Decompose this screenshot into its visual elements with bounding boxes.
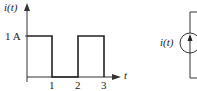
x-axis-label: t [124, 70, 127, 81]
y-axis [24, 3, 30, 82]
tick-label-2: 2 [75, 80, 81, 91]
tick-label-3: 3 [101, 80, 107, 91]
level-label: 1 A [5, 31, 21, 42]
tick-label-1: 1 [49, 80, 55, 91]
current-source [180, 12, 197, 78]
source-label: i(t) [160, 37, 173, 48]
pulse-waveform [27, 36, 104, 77]
y-axis-label: i(t) [4, 2, 17, 13]
